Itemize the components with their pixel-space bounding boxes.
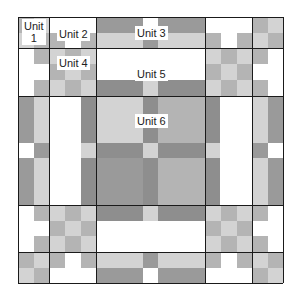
patch	[268, 48, 283, 96]
patch	[221, 33, 237, 48]
unit-3-label: Unit 3	[135, 26, 168, 40]
patch	[143, 205, 158, 221]
patch	[34, 205, 49, 221]
patch	[205, 80, 221, 96]
patch	[220, 96, 252, 205]
patch	[18, 158, 34, 205]
patch	[158, 158, 205, 205]
patch	[49, 96, 81, 205]
patch	[96, 252, 143, 268]
patch	[268, 143, 283, 158]
patch	[252, 252, 268, 268]
patch	[34, 64, 49, 80]
patch	[65, 205, 81, 221]
patch	[96, 205, 143, 221]
patch	[205, 236, 221, 252]
patch	[205, 17, 252, 33]
patch	[237, 252, 252, 268]
patch	[252, 80, 268, 96]
patch	[205, 205, 221, 221]
grid-line-horizontal	[18, 205, 283, 206]
patch	[18, 252, 34, 268]
patch	[49, 252, 65, 268]
patch	[252, 268, 268, 283]
unit-6-label: Unit 6	[135, 114, 168, 128]
patch	[221, 221, 237, 236]
patch	[96, 158, 143, 205]
patch	[252, 33, 268, 48]
unit-4-label: Unit 4	[57, 56, 90, 70]
patch	[205, 33, 221, 48]
patch	[65, 80, 81, 96]
patch	[65, 221, 81, 236]
patch	[96, 268, 143, 283]
patch	[252, 64, 268, 80]
patch	[81, 221, 96, 236]
patch	[18, 143, 34, 158]
patch	[205, 143, 220, 158]
patch	[49, 205, 65, 221]
patch	[268, 268, 283, 283]
patch	[221, 64, 237, 80]
patch	[237, 236, 252, 252]
patch	[268, 17, 283, 33]
patch	[237, 48, 252, 64]
quilt-diagram: Unit 1 Unit 2 Unit 3 Unit 4 Unit 5 Unit …	[0, 0, 295, 308]
patch	[65, 236, 81, 252]
unit-1-label: Unit 1	[22, 19, 46, 45]
patch	[81, 96, 96, 143]
patch	[34, 143, 49, 158]
patch	[96, 143, 143, 158]
patch	[34, 268, 49, 283]
grid-line-horizontal	[18, 252, 283, 253]
patch	[158, 205, 205, 221]
grid-line-vertical	[283, 17, 284, 283]
grid-line-horizontal	[18, 96, 283, 97]
patch	[81, 143, 96, 158]
patch	[49, 268, 96, 283]
patch	[143, 268, 158, 283]
unit-5-label: Unit 5	[135, 67, 168, 81]
patch	[268, 33, 283, 48]
patch	[205, 158, 220, 205]
patch	[252, 158, 268, 205]
patch	[18, 268, 34, 283]
patch	[221, 80, 237, 96]
patch	[49, 236, 65, 252]
patch	[252, 17, 268, 33]
grid-line-vertical	[205, 17, 206, 283]
patch	[221, 252, 237, 268]
unit-2-label: Unit 2	[57, 27, 90, 41]
patch	[18, 205, 34, 252]
patch	[237, 205, 252, 221]
grid-line-vertical	[49, 17, 50, 283]
patch	[268, 205, 283, 252]
grid-line-horizontal	[18, 17, 283, 18]
grid-line-horizontal	[18, 48, 283, 49]
patch	[205, 96, 220, 143]
patch	[143, 158, 158, 205]
patch	[34, 48, 49, 64]
patch	[205, 64, 221, 80]
patch	[81, 80, 96, 96]
patch	[221, 48, 237, 64]
patch	[158, 252, 205, 268]
patch	[143, 143, 158, 158]
patch	[205, 268, 252, 283]
patch	[143, 80, 158, 96]
patch	[96, 80, 143, 96]
patch	[237, 221, 252, 236]
patch	[252, 96, 268, 143]
patch	[158, 80, 205, 96]
patch	[96, 221, 205, 252]
patch	[81, 236, 96, 252]
grid-line-vertical	[18, 17, 19, 283]
patch	[252, 48, 268, 64]
patch	[268, 96, 283, 143]
patch	[237, 64, 252, 80]
patch	[34, 252, 49, 268]
patch	[221, 205, 237, 221]
patch	[49, 80, 65, 96]
patch	[237, 33, 252, 48]
patch	[252, 143, 268, 158]
